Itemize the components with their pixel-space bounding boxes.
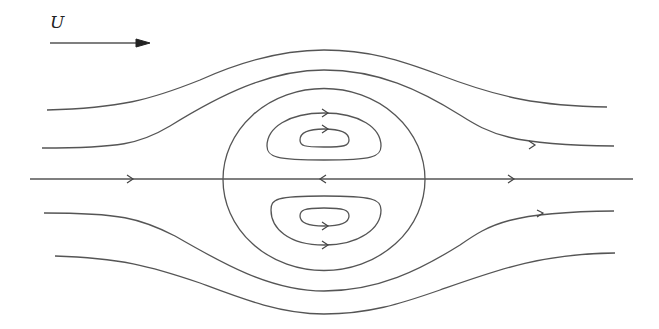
streamline-bottom-outer [55,253,615,314]
free-stream-arrow-icon [50,39,150,47]
flow-diagram: U [0,0,659,329]
streamline-bottom-arrow-icon [537,210,543,217]
streamline-top-outer [47,50,607,110]
vortex-loop-top-outer [267,113,381,160]
streamline-bottom-inner [44,211,614,291]
streamline-top-inner [42,70,614,148]
streamline-plot [0,0,659,329]
free-stream-velocity-label: U [50,12,64,32]
vortex-loop-bottom-outer [271,196,381,245]
